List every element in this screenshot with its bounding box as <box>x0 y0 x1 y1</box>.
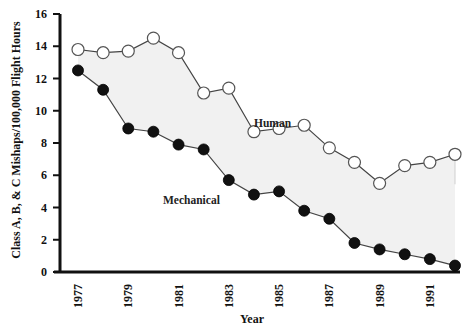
filled-circle-marker <box>349 237 360 248</box>
x-tick-label: 1977 <box>71 284 85 308</box>
filled-circle-marker <box>248 189 259 200</box>
y-tick-label: 8 <box>41 136 47 150</box>
x-tick-label: 1987 <box>322 284 336 308</box>
open-circle-marker <box>198 87 210 99</box>
shaded-region <box>78 38 455 265</box>
y-tick-label: 6 <box>41 168 47 182</box>
line-chart: 0246810121416197719791981198319851987198… <box>0 0 473 331</box>
filled-circle-marker <box>374 244 385 255</box>
x-axis-title: Year <box>240 312 265 326</box>
open-circle-marker <box>173 47 185 59</box>
open-circle-marker <box>348 156 360 168</box>
y-tick-label: 10 <box>35 104 47 118</box>
filled-circle-marker <box>123 123 134 134</box>
series-label-mechanical: Mechanical <box>163 194 220 206</box>
fill-between-area <box>78 38 455 265</box>
open-circle-marker <box>97 47 109 59</box>
filled-circle-marker <box>198 144 209 155</box>
open-circle-marker <box>72 43 84 55</box>
x-tick-label: 1991 <box>423 284 437 308</box>
y-tick-label: 14 <box>35 39 47 53</box>
y-tick-label: 12 <box>35 72 47 86</box>
y-tick-label: 4 <box>41 201 47 215</box>
open-circle-marker <box>223 82 235 94</box>
open-circle-marker <box>424 156 436 168</box>
x-tick-label: 1981 <box>172 284 186 308</box>
open-circle-marker <box>374 177 386 189</box>
series-label-human: Human <box>254 117 292 129</box>
filled-circle-marker <box>173 139 184 150</box>
filled-circle-marker <box>223 175 234 186</box>
filled-circle-marker <box>98 84 109 95</box>
open-circle-marker <box>399 160 411 172</box>
open-circle-marker <box>147 32 159 44</box>
filled-circle-marker <box>324 213 335 224</box>
y-tick-label: 2 <box>41 233 47 247</box>
y-tick-label: 16 <box>35 7 47 21</box>
y-axis-title: Class A, B, & C Mishaps/100,000 Flight H… <box>9 21 23 259</box>
open-circle-marker <box>449 148 461 160</box>
x-tick-label: 1979 <box>121 284 135 308</box>
filled-circle-marker <box>274 186 285 197</box>
y-tick-label: 0 <box>41 265 47 279</box>
open-circle-marker <box>298 119 310 131</box>
filled-circle-marker <box>450 260 461 271</box>
open-circle-marker <box>323 142 335 154</box>
filled-circle-marker <box>148 126 159 137</box>
open-circle-marker <box>122 45 134 57</box>
filled-circle-marker <box>399 249 410 260</box>
filled-circle-marker <box>299 205 310 216</box>
filled-circle-marker <box>424 254 435 265</box>
filled-circle-marker <box>73 65 84 76</box>
x-tick-label: 1985 <box>272 284 286 308</box>
x-tick-label: 1989 <box>373 284 387 308</box>
x-tick-label: 1983 <box>222 284 236 308</box>
